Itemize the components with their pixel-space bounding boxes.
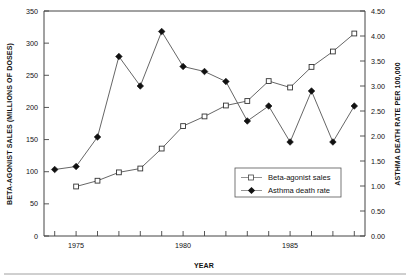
right-tick-label: 1.00	[371, 182, 385, 191]
data-point-open-square	[309, 65, 314, 70]
data-point-open-square	[331, 49, 336, 54]
data-point-open-square	[245, 99, 250, 104]
chart-figure: 050100150200250300350 0.000.501.001.502.…	[0, 0, 410, 280]
left-tick-label: 250	[26, 71, 38, 80]
open-square-icon	[249, 175, 254, 180]
right-tick-label: 0.50	[371, 207, 385, 216]
dual-axis-line-chart: 050100150200250300350 0.000.501.001.502.…	[0, 0, 410, 280]
legend-label-death-rate: Asthma death rate	[268, 186, 330, 195]
data-point-open-square	[74, 184, 79, 189]
x-axis-title: YEAR	[194, 262, 214, 269]
data-point-open-square	[224, 103, 229, 108]
left-tick-label: 50	[30, 199, 38, 208]
data-point-open-square	[288, 85, 293, 90]
left-tick-label: 100	[26, 167, 38, 176]
x-tick-label: 1975	[68, 241, 84, 250]
data-point-open-square	[159, 146, 164, 151]
right-tick-label: 4.00	[371, 32, 385, 41]
right-tick-label: 4.50	[371, 7, 385, 16]
right-tick-label: 3.00	[371, 82, 385, 91]
data-point-open-square	[352, 31, 357, 36]
data-point-open-square	[117, 170, 122, 175]
left-tick-label: 150	[26, 135, 38, 144]
left-tick-label: 0	[34, 232, 38, 241]
chart-legend: Beta-agonist sales Asthma death rate	[235, 168, 341, 197]
left-tick-label: 200	[26, 103, 38, 112]
data-point-open-square	[95, 178, 100, 183]
data-point-open-square	[138, 166, 143, 171]
right-tick-label: 2.50	[371, 107, 385, 116]
data-point-open-square	[181, 124, 186, 129]
left-tick-label: 300	[26, 39, 38, 48]
right-tick-label: 3.50	[371, 57, 385, 66]
left-tick-label: 350	[26, 7, 38, 16]
chart-background	[0, 0, 410, 280]
legend-label-sales: Beta-agonist sales	[268, 173, 331, 182]
x-tick-label: 1985	[282, 241, 298, 250]
right-tick-label: 0.00	[371, 232, 385, 241]
data-point-open-square	[266, 79, 271, 84]
data-point-open-square	[202, 114, 207, 119]
right-tick-label: 2.00	[371, 132, 385, 141]
x-tick-label: 1980	[175, 241, 191, 250]
right-tick-label: 1.50	[371, 157, 385, 166]
y-axis-title: BETA-AGONIST SALES (MILLIONS OF DOSES)	[6, 43, 14, 205]
y2-axis-title: ASTHMA DEATH RATE PER 100,000	[394, 62, 402, 186]
